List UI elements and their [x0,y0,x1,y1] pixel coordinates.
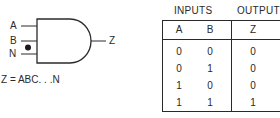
table-cell-b: 0 [203,46,217,58]
table-cell-a: 0 [172,63,186,75]
table-cell-a: 0 [172,46,186,58]
gate-body [37,19,91,63]
table-cell-z: 0 [246,80,260,92]
table-cell-b: 1 [203,97,217,109]
header-divider [163,39,280,40]
truth-table: A B Z 0 0 0 0 1 0 1 0 0 1 1 1 [162,20,280,112]
table-cell-b: 1 [203,63,217,75]
table-cell-z: 0 [246,63,260,75]
ellipsis-dot-icon [25,45,31,51]
inputs-group-header: INPUTS [174,5,212,17]
input-label-b: B [10,36,17,46]
table-cell-b: 0 [203,80,217,92]
table-cell-a: 1 [172,97,186,109]
and-gate-symbol [0,0,140,118]
table-cell-z: 1 [246,97,260,109]
output-label-z: Z [109,36,115,46]
table-cell-z: 0 [246,46,260,58]
input-label-a: A [10,21,17,31]
output-group-header: OUTPUT [237,5,280,17]
column-header-b: B [203,24,217,36]
input-label-n: N [9,49,16,59]
table-cell-a: 1 [172,80,186,92]
inputs-output-divider [231,21,232,111]
column-header-z: Z [246,24,260,36]
gate-equation: Z = ABC. . .N [1,74,60,86]
column-header-a: A [172,24,186,36]
